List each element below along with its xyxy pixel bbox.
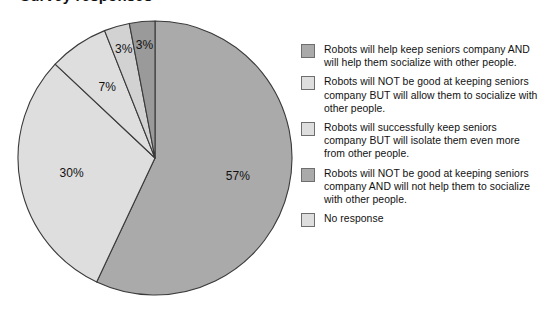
legend-item-label: Robots will successfully keep seniors co… — [324, 121, 539, 161]
legend-item[interactable]: Robots will NOT be good at keeping senio… — [301, 75, 539, 115]
legend-item[interactable]: Robots will successfully keep seniors co… — [301, 121, 539, 161]
legend-item-label: Robots will help keep seniors company AN… — [324, 43, 539, 69]
legend: Robots will help keep seniors company AN… — [301, 43, 539, 233]
legend-item[interactable]: No response — [301, 212, 539, 227]
pie-chart: 57%30%7%3%3% — [0, 0, 300, 316]
legend-item-label: Robots will NOT be good at keeping senio… — [324, 167, 539, 207]
pie-slice-label: 57% — [226, 169, 250, 183]
legend-item[interactable]: Robots will NOT be good at keeping senio… — [301, 167, 539, 207]
pie-slice-label: 7% — [99, 80, 117, 94]
pie-slice-group — [18, 21, 292, 295]
pie-chart-svg: 57%30%7%3%3% — [0, 0, 300, 316]
legend-item-label: Robots will NOT be good at keeping senio… — [324, 75, 539, 115]
legend-swatch-icon — [301, 213, 315, 227]
legend-item-label: No response — [324, 212, 383, 225]
legend-swatch-icon — [301, 44, 315, 58]
legend-swatch-icon — [301, 168, 315, 182]
pie-slice-label: 3% — [136, 38, 154, 52]
legend-item[interactable]: Robots will help keep seniors company AN… — [301, 43, 539, 69]
legend-swatch-icon — [301, 122, 315, 136]
pie-slice-label: 30% — [60, 166, 84, 180]
legend-swatch-icon — [301, 76, 315, 90]
pie-slice-label: 3% — [115, 42, 133, 56]
